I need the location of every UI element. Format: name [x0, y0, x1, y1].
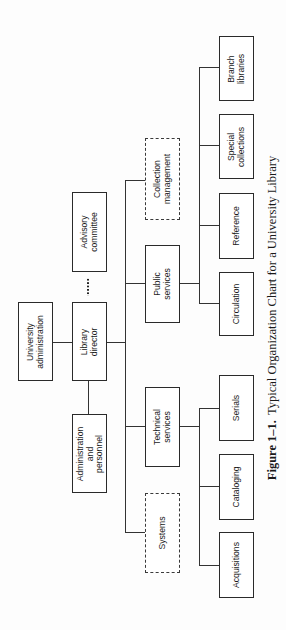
node-technical-services: Technical services: [145, 387, 180, 467]
connector-director-bus: [106, 342, 125, 343]
node-collection-management: Collection management: [145, 138, 180, 220]
connector-cataloging: [199, 486, 219, 487]
connector-bus-collection: [125, 180, 145, 181]
node-branch-libraries: Branch libraries: [219, 36, 254, 101]
connector-bus-systems: [125, 532, 145, 533]
public-sub-bus: [199, 67, 200, 303]
node-label: Reference: [232, 206, 242, 246]
node-university-administration: University administration: [18, 302, 53, 381]
connector-bus-public: [125, 283, 145, 284]
figure-title: Typical Organization Chart for a Univers…: [265, 156, 279, 415]
connector-technical-subbus: [180, 426, 199, 427]
node-acquisitions: Acquisitions: [219, 532, 254, 598]
org-chart-canvas: University administration Library direct…: [0, 0, 286, 630]
connector-circulation: [199, 303, 219, 304]
node-circulation: Circulation: [219, 272, 254, 336]
node-library-director: Library director: [72, 302, 107, 381]
connector-branch: [199, 67, 219, 68]
node-serials: Serials: [219, 375, 254, 441]
figure-label: Figure 1–1.: [265, 420, 279, 480]
connector-univ-director: [52, 342, 72, 343]
figure-caption: Figure 1–1.Typical Organization Chart fo…: [265, 156, 280, 480]
node-administration-personnel: Administration and personnel: [72, 414, 107, 493]
node-cataloging: Cataloging: [219, 454, 254, 520]
node-label: Acquisitions: [232, 542, 242, 588]
node-label: Serials: [232, 395, 242, 421]
connector-special: [199, 145, 219, 146]
node-label: Collection management: [153, 154, 172, 204]
node-label: Public services: [153, 268, 172, 300]
node-advisory-committee: Advisory committee: [72, 192, 107, 272]
connector-bus-technical: [125, 426, 145, 427]
node-label: Branch libraries: [227, 53, 246, 83]
connector-acquisitions: [199, 565, 219, 566]
node-label: Special collections: [227, 126, 246, 166]
node-reference: Reference: [219, 193, 254, 259]
main-bus: [125, 180, 126, 532]
node-label: Administration and personnel: [75, 426, 104, 480]
node-systems: Systems: [145, 493, 180, 573]
advisory-dotted-connector: [87, 278, 89, 296]
node-label: Circulation: [232, 284, 242, 325]
node-label: Systems: [158, 517, 168, 550]
connector-public-subbus: [180, 283, 199, 284]
node-label: Advisory committee: [80, 212, 99, 252]
node-label: Cataloging: [232, 466, 242, 507]
connector-director-admin: [88, 380, 89, 414]
node-public-services: Public services: [145, 245, 180, 323]
connector-reference: [199, 225, 219, 226]
connector-serials: [199, 408, 219, 409]
node-special-collections: Special collections: [219, 114, 254, 179]
node-label: University administration: [26, 315, 45, 369]
node-label: Technical services: [153, 409, 172, 445]
node-label: Library director: [80, 327, 99, 356]
